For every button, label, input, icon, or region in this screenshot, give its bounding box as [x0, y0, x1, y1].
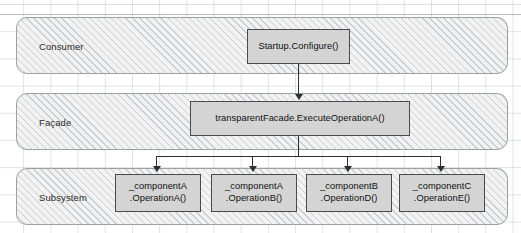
arrowhead-compB-opD	[344, 166, 352, 172]
node-componentb-operationd[interactable]: _componentB .OperationD()	[306, 174, 392, 212]
connector-startup-to-facade	[298, 64, 299, 95]
connector-subsystem-bus	[156, 156, 441, 157]
node-componentc-operatione[interactable]: _componentC .OperationE()	[399, 174, 485, 212]
arrowhead-compA-opB	[249, 166, 257, 172]
swimlane-label-consumer: Consumer	[39, 40, 84, 51]
diagram-canvas: Consumer Façade Subsystem Startup.Config…	[0, 0, 521, 233]
background-grid-top-rule	[0, 14, 521, 15]
node-transparent-facade-execute-operation-a[interactable]: transparentFacade.ExecuteOperationA()	[190, 101, 410, 136]
node-componenta-operationb[interactable]: _componentA .OperationB()	[211, 174, 297, 212]
arrowhead-compA-opA	[153, 166, 161, 172]
connector-facade-to-bus	[298, 136, 299, 157]
arrowhead-facade	[295, 94, 303, 100]
node-componenta-operationa[interactable]: _componentA .OperationA()	[115, 174, 201, 212]
node-startup-configure[interactable]: Startup.Configure()	[247, 29, 350, 64]
swimlane-label-facade: Façade	[39, 116, 71, 127]
swimlane-label-subsystem: Subsystem	[39, 191, 87, 202]
arrowhead-compC-opE	[437, 166, 445, 172]
